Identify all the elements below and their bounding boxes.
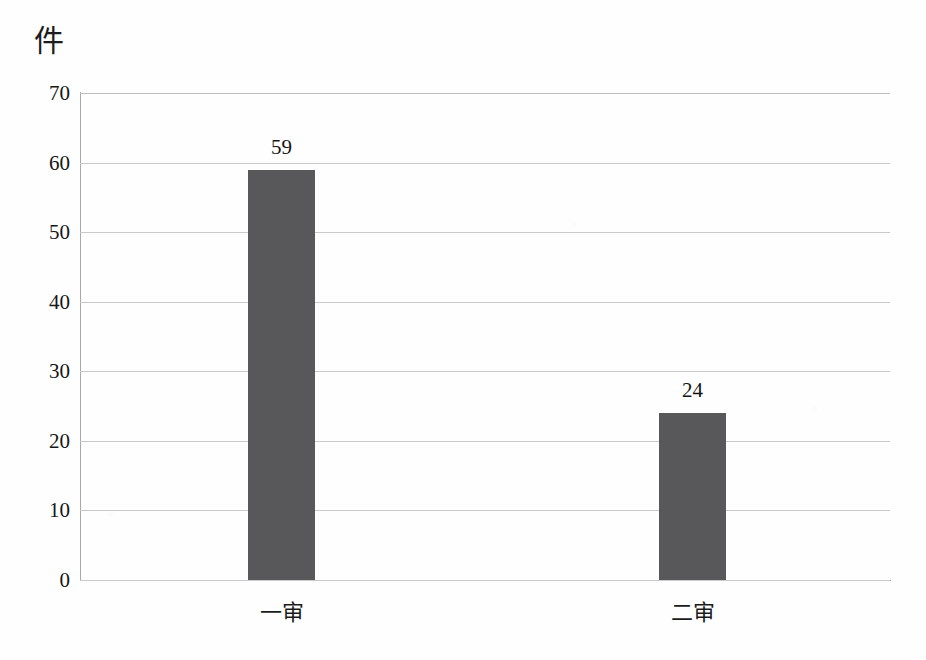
- gridline-0: [80, 580, 890, 581]
- plot-area: [80, 93, 890, 580]
- y-tick-label-70: 70: [14, 83, 70, 104]
- gridline-50: [80, 232, 890, 233]
- y-axis-unit-label: 件: [34, 26, 64, 56]
- bar-chart: 件 010203040506070 5924 一审二审: [0, 0, 926, 660]
- gridline-60: [80, 163, 890, 164]
- y-tick-label-60: 60: [14, 153, 70, 174]
- gridline-40: [80, 302, 890, 303]
- bar-value-label-二审: 24: [653, 380, 733, 401]
- x-category-label-二审: 二审: [623, 602, 763, 624]
- gridline-70: [80, 93, 890, 94]
- y-tick-label-30: 30: [14, 361, 70, 382]
- bar-value-label-一审: 59: [242, 137, 322, 158]
- gridline-10: [80, 510, 890, 511]
- x-category-label-一审: 一审: [212, 602, 352, 624]
- y-tick-label-20: 20: [14, 431, 70, 452]
- bar-二审[interactable]: [659, 413, 726, 580]
- y-tick-label-50: 50: [14, 222, 70, 243]
- y-tick-label-0: 0: [14, 570, 70, 591]
- y-tick-label-10: 10: [14, 500, 70, 521]
- gridline-20: [80, 441, 890, 442]
- gridline-30: [80, 371, 890, 372]
- bar-一审[interactable]: [248, 170, 315, 580]
- y-tick-label-40: 40: [14, 292, 70, 313]
